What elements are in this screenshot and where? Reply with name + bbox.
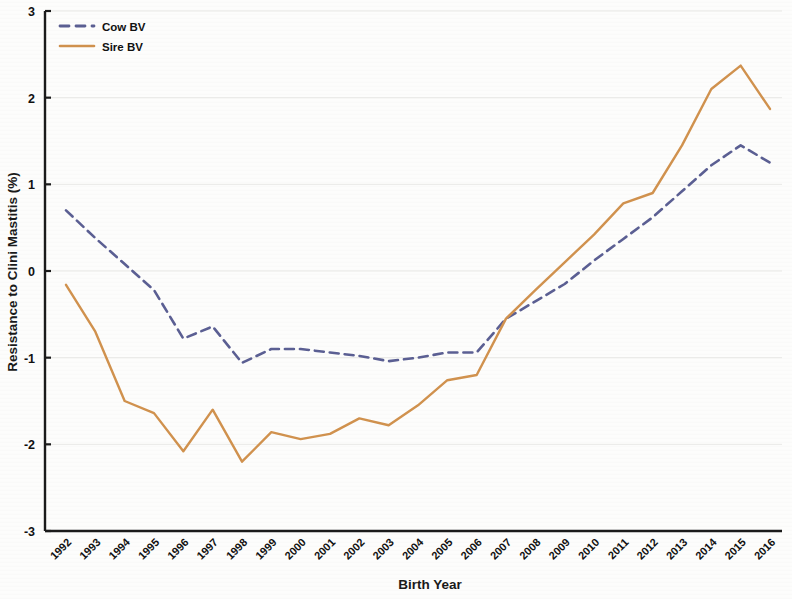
x-tick-label: 2008 <box>517 536 543 562</box>
legend-label-cow-bv: Cow BV <box>102 21 146 33</box>
y-tick-label: -1 <box>24 352 35 366</box>
x-tick-label: 1999 <box>253 536 279 562</box>
y-tick-label: -2 <box>24 438 35 452</box>
y-axis-title: Resistance to Clini Mastitis (%) <box>5 172 20 372</box>
x-tick-label: 2010 <box>576 536 602 562</box>
x-tick-label: 2009 <box>546 536 572 562</box>
x-axis-title: Birth Year <box>398 577 462 592</box>
line-chart: 3210-1-2-3 19921993199419951996199719981… <box>0 0 792 599</box>
x-tick-label: 2013 <box>664 536 690 562</box>
gridlines <box>45 11 782 444</box>
data-series <box>66 66 770 462</box>
y-tick-label: 0 <box>28 265 35 279</box>
x-tick-label: 1992 <box>48 536 74 562</box>
y-axis-ticks: 3210-1-2-3 <box>24 5 51 539</box>
x-tick-label: 1995 <box>136 536 162 562</box>
x-tick-label: 2001 <box>312 536 338 562</box>
x-tick-label: 1997 <box>194 536 220 562</box>
y-tick-label: -3 <box>24 525 35 539</box>
x-tick-label: 1993 <box>77 536 103 562</box>
chart-legend: Cow BVSire BV <box>60 21 146 53</box>
x-tick-label: 2014 <box>693 535 719 561</box>
series-line-cow-bv <box>66 145 770 363</box>
x-tick-label: 2011 <box>605 536 630 561</box>
x-tick-label: 2012 <box>634 536 660 562</box>
x-tick-label: 2016 <box>752 536 778 562</box>
chart-figure: 3210-1-2-3 19921993199419951996199719981… <box>0 0 792 599</box>
x-tick-label: 1998 <box>224 536 250 562</box>
y-tick-label: 2 <box>28 92 35 106</box>
x-tick-label: 2005 <box>429 536 455 562</box>
x-axis-tick-labels: 1992199319941995199619971998199920002001… <box>48 535 778 561</box>
x-tick-label: 2006 <box>458 536 484 562</box>
x-tick-label: 2015 <box>722 536 748 562</box>
legend-label-sire-bv: Sire BV <box>102 41 143 53</box>
x-tick-label: 1996 <box>165 536 191 562</box>
x-tick-label: 2002 <box>341 536 367 562</box>
y-tick-label: 3 <box>28 5 35 19</box>
x-tick-label: 2000 <box>282 536 308 562</box>
y-tick-label: 1 <box>28 178 35 192</box>
x-tick-label: 1994 <box>106 535 132 561</box>
series-line-sire-bv <box>66 66 770 462</box>
x-tick-label: 2007 <box>488 536 514 562</box>
x-tick-label: 2003 <box>370 536 396 562</box>
x-tick-label: 2004 <box>400 535 426 561</box>
